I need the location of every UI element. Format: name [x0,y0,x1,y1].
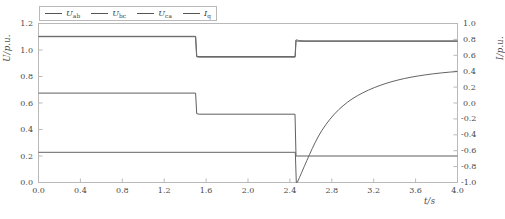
y-right-tick-5: 0.0 [463,99,497,108]
y-right-tick-2: -0.6 [461,146,495,155]
x-tick-7: 2.8 [315,186,349,195]
series-line-u-ca [39,93,458,156]
y-right-tick-8: 0.6 [463,51,497,60]
legend-label-u-ab: Uab [66,9,80,18]
y-left-tick-2: 0.4 [3,125,33,134]
y-left-tick-4: 0.8 [3,72,33,81]
y-right-tick-3: -0.4 [461,130,495,139]
left-axis-ticks [39,24,43,183]
legend-item-u-ab: Uab [45,9,80,18]
series-line-u-bc [39,36,458,57]
x-tick-2: 0.8 [105,186,139,195]
y-left-tick-5: 1.0 [3,46,33,55]
legend-item-u-bc: Ubc [91,9,126,18]
legend-item-i-q: Iq [183,9,211,18]
y-left-tick-6: 1.2 [3,19,33,28]
x-tick-4: 1.6 [189,186,223,195]
x-tick-10: 4.0 [441,186,475,195]
legend-line-swatch-u-ab [45,13,62,14]
bottom-axis-ticks [39,179,458,183]
y-right-tick-10: 1.0 [463,19,497,28]
legend-line-swatch-u-bc [91,13,108,14]
legend-label-i-q: Iq [204,9,211,18]
plot-frame [39,24,458,183]
x-tick-3: 1.2 [147,186,181,195]
x-tick-0: 0.0 [22,186,56,195]
y-left-tick-3: 0.6 [3,99,33,108]
legend-label-u-ca: Uca [158,9,172,18]
legend-item-u-ca: Uca [137,9,172,18]
chart-legend: Uab Ubc Uca Iq [39,6,217,21]
y-right-tick-1: -0.8 [461,162,495,171]
legend-line-swatch-u-ca [137,13,154,14]
series-line-u-ab [39,37,458,57]
x-tick-9: 3.6 [399,186,433,195]
x-tick-6: 2.4 [273,186,307,195]
y-right-tick-6: 0.2 [463,83,497,92]
y-right-tick-9: 0.8 [463,35,497,44]
x-tick-5: 2.0 [231,186,265,195]
x-tick-8: 3.2 [357,186,391,195]
series-line-i-q [39,72,458,183]
x-tick-1: 0.4 [63,186,97,195]
right-axis-ticks [454,24,458,183]
legend-label-u-bc: Ubc [112,9,126,18]
legend-line-swatch-i-q [183,13,200,14]
y-right-tick-4: -0.2 [461,114,495,123]
x-axis-label: t/s [424,196,435,206]
y-left-tick-1: 0.2 [3,152,33,161]
y-right-tick-7: 0.4 [463,67,497,76]
